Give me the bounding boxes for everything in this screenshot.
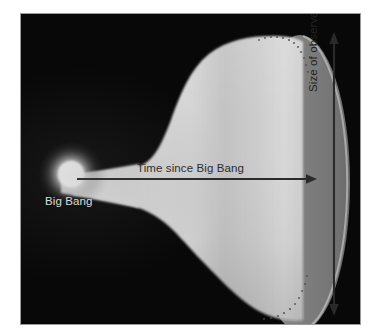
figure-root: Big Bang Time since Big Bang Size of obs… — [0, 0, 375, 336]
diagram-stage: Big Bang Time since Big Bang Size of obs… — [21, 14, 360, 324]
diagram-plate: Big Bang Time since Big Bang Size of obs… — [20, 13, 361, 325]
big-bang-label: Big Bang — [45, 195, 92, 207]
time-axis-label: Time since Big Bang — [137, 162, 244, 174]
size-axis-label: Size of observable universe — [307, 13, 319, 92]
